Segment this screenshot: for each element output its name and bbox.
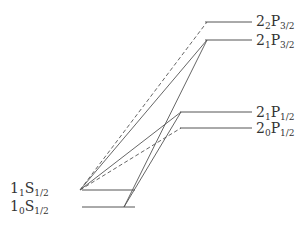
j-value: 1/2 <box>34 188 48 198</box>
level-label: 21P3/2 <box>256 33 295 50</box>
principal-number: 1 <box>10 198 19 214</box>
transition-solid <box>124 112 181 207</box>
j-value: 1/2 <box>280 128 294 138</box>
term-symbol: S <box>25 180 35 196</box>
principal-number: 2 <box>256 104 265 120</box>
j-value: 1/2 <box>34 206 48 216</box>
j-value: 3/2 <box>280 21 294 31</box>
level-label: 20P1/2 <box>256 121 295 138</box>
principal-number: 2 <box>256 13 265 29</box>
level-label: 22P3/2 <box>256 14 295 31</box>
term-symbol: P <box>271 104 280 120</box>
level-label: 11S1/2 <box>10 181 49 198</box>
j-value: 3/2 <box>280 40 294 50</box>
energy-levels <box>82 22 252 207</box>
transition-dashed <box>80 22 207 190</box>
principal-number: 1 <box>10 180 19 196</box>
transition-solid <box>80 112 181 190</box>
principal-number: 2 <box>256 32 265 48</box>
term-symbol: P <box>271 32 280 48</box>
principal-number: 2 <box>256 120 265 136</box>
term-symbol: S <box>25 198 35 214</box>
level-label: 10S1/2 <box>10 199 49 216</box>
transitions <box>80 22 207 207</box>
term-symbol: P <box>271 13 280 29</box>
term-symbol: P <box>271 120 280 136</box>
